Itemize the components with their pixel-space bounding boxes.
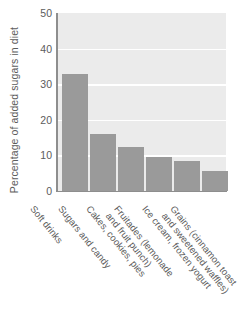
y-tick-label-10: 10 bbox=[22, 149, 52, 161]
bars-layer bbox=[56, 13, 226, 191]
x-axis-labels: Soft drinks Sugars and candy Cakes, cook… bbox=[0, 191, 239, 335]
y-tick-label-40: 40 bbox=[22, 43, 52, 55]
bar-soft-drinks bbox=[62, 74, 88, 191]
bar-fruitades bbox=[146, 157, 172, 191]
bar-sugars-and-candy bbox=[90, 134, 116, 191]
y-tick-label-50: 50 bbox=[22, 7, 52, 19]
bar-grains bbox=[202, 171, 228, 191]
y-tick-label-30: 30 bbox=[22, 78, 52, 90]
bar-ice-cream-frozen-yogurt bbox=[174, 161, 200, 191]
x-label-line2: and sweetened waffles) bbox=[159, 211, 231, 296]
bar-chart: Percentage of added sugars in diet 50 40… bbox=[0, 0, 239, 335]
bar-cakes-cookies-pies bbox=[118, 147, 144, 192]
y-tick-label-20: 20 bbox=[22, 114, 52, 126]
y-axis-title: Percentage of added sugars in diet bbox=[8, 10, 20, 210]
